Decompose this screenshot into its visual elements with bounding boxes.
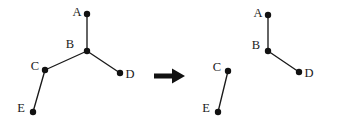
graph-node-before-E xyxy=(30,109,36,115)
node-label-after-C: C xyxy=(213,60,221,74)
graph-node-after-A xyxy=(265,12,271,18)
diagram-canvas: ABCDE ABCDE xyxy=(0,0,337,127)
left-graph-edge-group xyxy=(33,14,120,112)
right-graph-edge-group xyxy=(218,15,299,112)
node-label-before-E: E xyxy=(17,101,25,115)
right-graph-node-group: ABCDE xyxy=(202,6,313,115)
graph-node-after-D xyxy=(296,69,302,75)
node-label-after-E: E xyxy=(202,101,210,115)
node-label-before-B: B xyxy=(66,37,74,51)
graph-node-before-D xyxy=(117,70,123,76)
graph-edge-before-CE xyxy=(33,70,45,112)
node-label-after-A: A xyxy=(253,6,262,20)
left-graph-node-group: ABCDE xyxy=(17,5,134,115)
graph-edge-after-BD xyxy=(268,51,299,72)
graph-node-after-B xyxy=(265,48,271,54)
graph-node-after-C xyxy=(225,68,231,74)
graph-node-before-C xyxy=(42,67,48,73)
node-label-before-A: A xyxy=(72,5,81,19)
graph-node-before-B xyxy=(84,48,90,54)
node-label-before-C: C xyxy=(31,59,39,73)
implies-double-arrow-icon xyxy=(154,69,185,84)
node-label-after-B: B xyxy=(252,38,260,52)
graph-edge-before-BD xyxy=(87,51,120,73)
arrow-glyph xyxy=(154,69,185,84)
graph-node-after-E xyxy=(215,109,221,115)
graph-node-before-A xyxy=(84,11,90,17)
node-label-after-D: D xyxy=(304,66,313,80)
graph-transformation-figure: ABCDE ABCDE xyxy=(0,0,337,127)
graph-edge-before-BC xyxy=(45,51,87,70)
graph-edge-after-CE xyxy=(218,71,228,112)
node-label-before-D: D xyxy=(125,67,134,81)
